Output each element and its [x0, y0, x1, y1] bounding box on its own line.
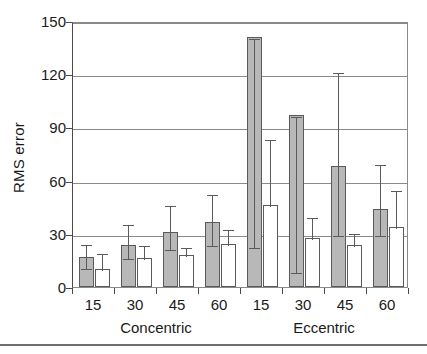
error-bar-cap	[333, 236, 344, 237]
error-bar-cap	[391, 191, 402, 192]
error-bar-cap	[265, 140, 276, 141]
x-axis-group-label: Concentric	[86, 319, 226, 336]
error-bar-line	[128, 225, 129, 259]
y-axis-title: RMS error	[6, 92, 30, 222]
error-bar-cap	[291, 273, 302, 274]
error-bar-line	[144, 246, 145, 259]
error-bar-cap	[307, 218, 318, 219]
error-bar-line	[102, 254, 103, 272]
y-axis-tick-label: 90	[30, 120, 66, 135]
x-axis-tick	[114, 288, 115, 294]
error-bar-line	[396, 191, 397, 228]
x-axis-tick-label: 15	[73, 296, 113, 313]
y-axis-title-label: RMS error	[10, 122, 27, 193]
x-axis-tick-label: 45	[157, 296, 197, 313]
y-axis-tick-label: 120	[30, 67, 66, 82]
error-bar-line	[338, 73, 339, 236]
x-axis-tick	[240, 288, 241, 294]
error-bar-line	[312, 218, 313, 240]
error-bar-cap	[375, 165, 386, 166]
x-axis-tick-label: 15	[241, 296, 281, 313]
error-bar-cap	[207, 246, 218, 247]
bar	[305, 238, 320, 287]
x-axis-tick-label: 45	[325, 296, 365, 313]
x-axis-tick-label: 30	[283, 296, 323, 313]
error-bar-line	[86, 245, 87, 270]
error-bar-line	[296, 117, 297, 273]
figure-rms-error-bar-chart: RMS error 0306090120150 1530456015304560…	[0, 0, 427, 354]
error-bar-line	[354, 234, 355, 247]
x-axis-tick	[198, 288, 199, 294]
x-axis-tick-label: 60	[199, 296, 239, 313]
error-bar-line	[212, 195, 213, 246]
x-axis-tick	[282, 288, 283, 294]
error-bar-cap	[123, 259, 134, 260]
error-bar-line	[270, 140, 271, 207]
error-bar-line	[170, 206, 171, 250]
error-bar-cap	[249, 248, 260, 249]
error-bar-cap	[223, 230, 234, 231]
error-bar-cap	[207, 195, 218, 196]
bar	[347, 245, 362, 287]
y-axis-tick-label: 0	[30, 280, 66, 295]
error-bar-cap	[97, 254, 108, 255]
y-axis-tick-label: 60	[30, 174, 66, 189]
x-axis-tick	[366, 288, 367, 294]
error-bar-cap	[349, 234, 360, 235]
x-axis-tick-label: 60	[367, 296, 407, 313]
error-bar-line	[254, 39, 255, 248]
plot-area	[72, 22, 408, 288]
bar	[137, 258, 152, 287]
error-bar-cap	[139, 246, 150, 247]
error-bar-cap	[123, 225, 134, 226]
error-bar-cap	[165, 250, 176, 251]
x-axis-tick	[324, 288, 325, 294]
bar	[179, 255, 194, 287]
error-bar-line	[380, 165, 381, 236]
error-bar-cap	[333, 73, 344, 74]
bars-layer	[73, 23, 407, 287]
bar	[95, 269, 110, 287]
error-bar-line	[228, 230, 229, 245]
x-axis-tick	[408, 288, 409, 294]
bottom-rule	[0, 344, 427, 346]
y-axis-tick-label: 150	[30, 14, 66, 29]
error-bar-cap	[81, 269, 92, 270]
x-axis-tick	[72, 288, 73, 294]
bar	[389, 227, 404, 287]
x-axis-tick	[156, 288, 157, 294]
error-bar-cap	[291, 117, 302, 118]
error-bar-cap	[375, 236, 386, 237]
x-axis-group-label: Eccentric	[254, 319, 394, 336]
error-bar-line	[186, 248, 187, 257]
error-bar-cap	[165, 206, 176, 207]
error-bar-cap	[81, 245, 92, 246]
error-bar-cap	[249, 39, 260, 40]
bar	[263, 205, 278, 287]
bar	[221, 244, 236, 287]
x-axis-tick-label: 30	[115, 296, 155, 313]
error-bar-cap	[181, 248, 192, 249]
y-axis-tick-label: 30	[30, 227, 66, 242]
